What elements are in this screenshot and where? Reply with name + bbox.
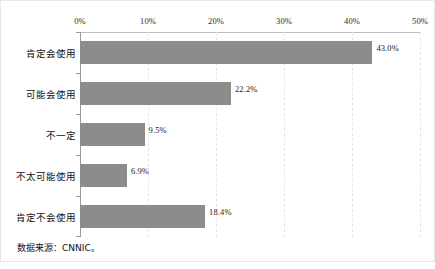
x-axis-tick-label: 10% <box>140 16 156 26</box>
y-axis-category-label: 可能会使用 <box>2 87 76 101</box>
bar-value-label: 22.2% <box>235 84 257 94</box>
bar-value-label: 18.4% <box>209 207 231 217</box>
bar-row: 18.4% <box>80 196 420 237</box>
y-axis-tick-mark <box>76 196 80 197</box>
y-axis-category-label: 肯定不会使用 <box>2 210 76 224</box>
bar <box>80 41 372 64</box>
bar <box>80 123 145 146</box>
bar-row: 22.2% <box>80 73 420 114</box>
x-axis-tick-label: 40% <box>344 16 360 26</box>
bar-value-label: 43.0% <box>376 43 398 53</box>
bar-value-label: 6.9% <box>131 166 149 176</box>
bar <box>80 82 231 105</box>
bar-row: 6.9% <box>80 155 420 196</box>
y-axis-category-label: 不太可能使用 <box>2 169 76 183</box>
bar <box>80 164 127 187</box>
y-axis-category-label: 肯定会使用 <box>2 46 76 60</box>
y-axis-tick-mark <box>76 32 80 33</box>
x-axis-tick-label: 20% <box>208 16 224 26</box>
plot-area: 43.0%22.2%9.5%6.9%18.4% <box>80 32 420 237</box>
y-axis-tick-mark <box>76 73 80 74</box>
y-axis-tick-mark <box>76 114 80 115</box>
y-axis-category-label: 不一定 <box>2 128 76 142</box>
y-axis-category-labels: 肯定会使用可能会使用不一定不太可能使用肯定不会使用 <box>0 32 76 237</box>
bar-row: 9.5% <box>80 114 420 155</box>
x-axis-tick-label: 0% <box>74 16 86 26</box>
bar-row: 43.0% <box>80 32 420 73</box>
y-axis-tick-mark <box>76 236 80 237</box>
y-axis-tick-mark <box>76 155 80 156</box>
bar-chart-figure: 0%10%20%30%40%50% 肯定会使用可能会使用不一定不太可能使用肯定不… <box>0 0 435 269</box>
gridline <box>420 32 421 237</box>
bar-value-label: 9.5% <box>149 125 167 135</box>
bar <box>80 205 205 228</box>
x-axis-tick-label: 50% <box>412 16 428 26</box>
x-axis-tick-label: 30% <box>276 16 292 26</box>
source-note: 数据来源：CNNIC。 <box>17 241 100 254</box>
